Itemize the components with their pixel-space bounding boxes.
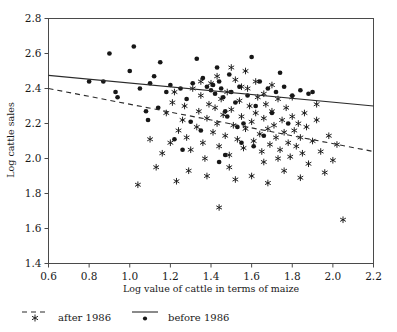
data-point-asterisk	[204, 115, 210, 122]
data-point-asterisk	[253, 110, 259, 117]
legend-label-before-1986: before 1986	[168, 312, 229, 323]
data-point-asterisk	[314, 101, 320, 108]
data-point-asterisk	[243, 68, 249, 75]
data-point-asterisk	[194, 124, 200, 131]
data-point-asterisk	[261, 159, 267, 166]
data-point-asterisk	[326, 132, 332, 139]
data-point-asterisk	[259, 148, 265, 155]
data-point-dot	[213, 91, 218, 96]
data-point-dot	[211, 83, 216, 88]
data-point-dot	[225, 114, 230, 119]
x-axis-title: Log value of cattle in terms of maize	[123, 283, 300, 294]
data-point-asterisk	[247, 103, 253, 110]
trend-lines-layer	[49, 75, 374, 151]
data-point-dot	[249, 55, 254, 60]
data-point-dot	[221, 95, 226, 100]
data-point-asterisk	[214, 73, 220, 80]
data-point-asterisk	[188, 146, 194, 153]
data-point-asterisk	[222, 132, 228, 139]
data-point-asterisk	[261, 115, 267, 122]
data-point-dot	[239, 140, 244, 145]
data-point-asterisk	[210, 129, 216, 136]
data-point-asterisk	[200, 139, 206, 146]
y-tick-label: 2.2	[25, 117, 42, 129]
data-point-asterisk	[186, 167, 192, 174]
data-point-dot	[180, 147, 185, 152]
legend-dot-icon	[143, 316, 147, 320]
data-point-dot	[127, 69, 132, 74]
scatter-plot: 1.41.61.82.02.22.42.62.8 0.60.81.01.21.4…	[0, 0, 397, 332]
data-point-asterisk	[172, 89, 178, 96]
data-point-asterisk	[180, 117, 186, 124]
y-tick-label: 1.8	[25, 187, 42, 199]
data-point-asterisk	[289, 113, 295, 120]
data-point-dot	[217, 79, 222, 84]
data-point-asterisk	[298, 174, 304, 181]
y-axis: 1.41.61.82.02.22.42.62.8	[25, 12, 49, 269]
data-series-layer	[87, 44, 346, 223]
data-point-dot	[113, 90, 118, 95]
data-point-dot	[286, 121, 291, 126]
y-tick-label: 2.0	[25, 152, 42, 164]
data-point-dot	[237, 84, 242, 89]
chart-legend: after 1986 before 1986	[22, 312, 229, 323]
data-point-asterisk	[233, 176, 239, 183]
series-before-1986	[87, 44, 315, 164]
data-point-asterisk	[295, 120, 301, 127]
data-point-asterisk	[340, 216, 346, 223]
data-point-asterisk	[198, 92, 204, 99]
y-tick-label: 2.8	[25, 12, 42, 24]
data-point-dot	[198, 128, 203, 133]
y-tick-label: 1.4	[25, 257, 42, 269]
data-point-dot	[144, 109, 149, 114]
data-point-dot	[107, 51, 112, 56]
plot-frame	[49, 19, 374, 264]
y-tick-label: 2.6	[25, 47, 42, 59]
data-point-asterisk	[271, 122, 277, 129]
data-point-dot	[223, 153, 228, 158]
data-point-asterisk	[204, 173, 210, 180]
data-point-asterisk	[273, 134, 279, 141]
x-tick-label: 1.4	[203, 270, 220, 282]
data-point-dot	[201, 76, 206, 81]
data-point-asterisk	[206, 101, 212, 108]
data-point-asterisk	[228, 106, 234, 113]
data-point-dot	[138, 86, 143, 91]
data-point-dot	[270, 111, 275, 116]
data-point-asterisk	[147, 136, 153, 143]
data-point-dot	[184, 97, 189, 102]
data-point-asterisk	[239, 113, 245, 120]
x-tick-label: 0.8	[81, 270, 98, 282]
data-point-asterisk	[265, 180, 271, 187]
data-point-asterisk	[306, 160, 312, 167]
data-point-asterisk	[202, 155, 208, 162]
data-point-dot	[172, 137, 177, 142]
data-point-asterisk	[285, 139, 291, 146]
data-point-dot	[217, 160, 222, 165]
data-point-asterisk	[310, 138, 316, 145]
x-tick-label: 1.2	[162, 270, 179, 282]
data-point-asterisk	[267, 141, 273, 148]
data-point-asterisk	[153, 164, 159, 171]
data-point-asterisk	[184, 134, 190, 141]
data-point-asterisk	[279, 117, 285, 124]
data-point-asterisk	[235, 136, 241, 143]
data-point-dot	[257, 79, 262, 84]
data-point-asterisk	[176, 127, 182, 134]
data-point-dot	[152, 74, 157, 79]
data-point-asterisk	[212, 104, 218, 111]
data-point-dot	[205, 84, 210, 89]
data-point-dot	[278, 70, 283, 75]
data-point-asterisk	[287, 153, 293, 160]
data-point-dot	[158, 60, 163, 65]
data-point-asterisk	[293, 143, 299, 150]
data-point-dot	[282, 84, 287, 89]
data-point-asterisk	[281, 167, 287, 174]
data-point-asterisk	[196, 108, 202, 115]
data-point-asterisk	[304, 124, 310, 131]
data-point-dot	[164, 90, 169, 95]
data-point-dot	[233, 100, 238, 105]
y-tick-label: 2.4	[25, 82, 42, 94]
data-point-asterisk	[277, 146, 283, 153]
data-point-asterisk	[182, 103, 188, 110]
